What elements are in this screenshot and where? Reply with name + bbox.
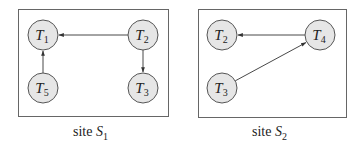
node-t2: T2 (128, 20, 158, 50)
site-s1-caption: site S1 (73, 124, 108, 142)
site-s2-caption: site S2 (252, 124, 287, 142)
site-s1-graph: T1T2T5T3 (19, 10, 169, 117)
site-s1-caption-sub: 1 (103, 131, 108, 142)
node-t4: T4 (305, 20, 335, 50)
node-t5: T5 (28, 73, 58, 103)
node-t2: T2 (207, 20, 237, 50)
site-s1-caption-var: S (96, 124, 103, 139)
site-s1-caption-word: site (73, 124, 92, 139)
site-s2-graph: T2T4T3 (199, 10, 347, 118)
site-s2-caption-sub: 2 (282, 131, 287, 142)
site-s2-caption-var: S (275, 124, 282, 139)
node-t3: T3 (128, 73, 158, 103)
node-t1: T1 (28, 20, 58, 50)
site-s2-caption-word: site (252, 124, 271, 139)
node-t3: T3 (207, 73, 237, 103)
edge-t3-to-t4 (235, 43, 306, 81)
wait-for-graph-diagram: T1T2T5T3 T2T4T3 (0, 0, 361, 148)
